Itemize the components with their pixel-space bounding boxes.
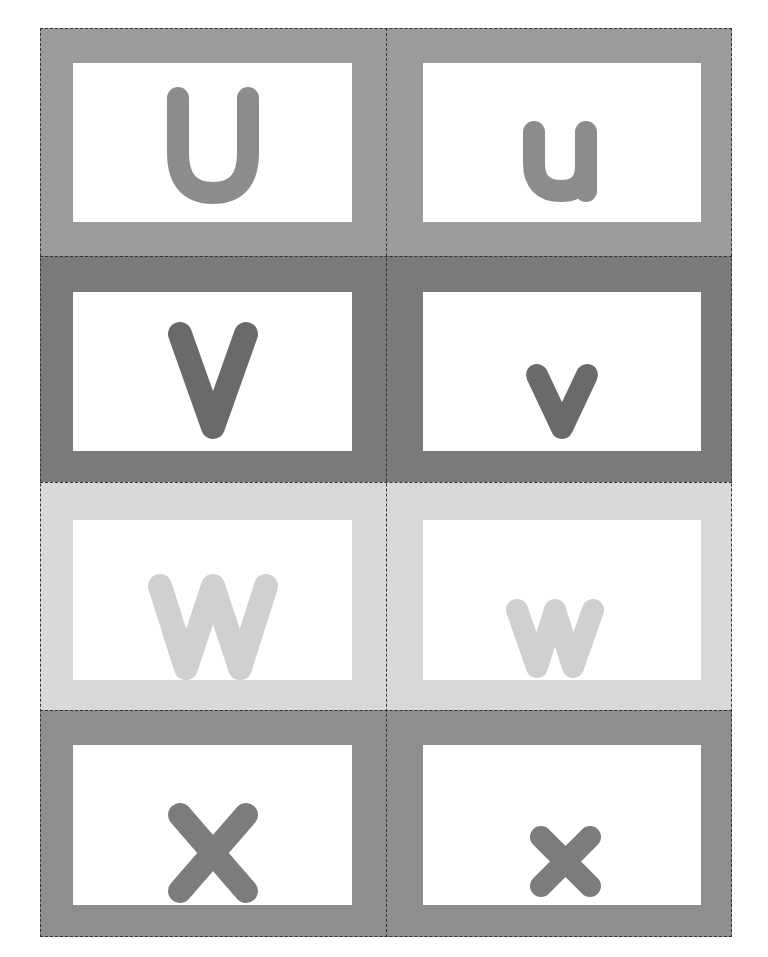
letter-w-glyph [40,482,386,710]
letter-u-lowercase-glyph [386,28,732,256]
card-uppercase-x: X [40,710,386,937]
card-uppercase-u: U [40,28,386,256]
letter-x-glyph [40,710,386,937]
letter-v-glyph [40,256,386,482]
letter-v-lowercase-glyph [386,256,732,482]
card-lowercase-v: v [386,256,732,482]
card-uppercase-w: W [40,482,386,710]
cut-line-center [386,28,387,937]
card-lowercase-u: u [386,28,732,256]
letter-u-glyph [40,28,386,256]
letter-x-lowercase-glyph [386,710,732,937]
card-lowercase-w: w [386,482,732,710]
letter-w-lowercase-glyph [386,482,732,710]
cut-line-right [731,28,732,937]
flash-card-sheet: U u V v W w [40,28,732,937]
card-uppercase-v: V [40,256,386,482]
cut-line-left [40,28,41,937]
card-lowercase-x: x [386,710,732,937]
